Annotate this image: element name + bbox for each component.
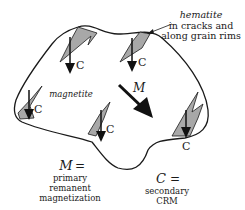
legend-c-line2: CRM [156,196,178,206]
legend-m-line1: primary [53,173,87,183]
legend-c-symbol: C [156,171,166,186]
svg-text:M: M [132,81,146,95]
hematite-desc-2: along grain rims [161,30,241,41]
svg-text:C: C [34,103,42,116]
svg-text:C: C [182,140,190,153]
legend-m-line2: remanent [49,183,91,193]
legend-c-equals: = [170,172,180,186]
svg-text:C: C [138,56,146,69]
legend-m-line3: magnetization [39,193,101,203]
legend-c-line1: secondary [145,186,189,196]
svg-text:C: C [106,123,114,136]
m-arrow: M [119,81,153,118]
grain-outline [14,26,208,170]
grain-diagram: C C C C C M hematite in cracks and along… [0,0,245,210]
legend-m-equals: = [75,159,85,173]
hematite-title: hematite [180,9,223,20]
magnetite-label: magnetite [49,89,93,99]
legend-m-symbol: M [58,158,73,173]
svg-text:C: C [76,59,84,72]
